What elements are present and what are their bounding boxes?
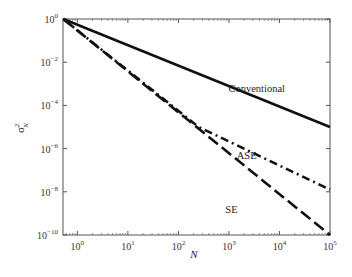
series-labels: ConventionalASESE bbox=[225, 83, 285, 215]
y-tick-label: 10−2 bbox=[41, 55, 59, 68]
series-lines bbox=[63, 19, 330, 235]
y-tick-label: 10−8 bbox=[41, 185, 59, 198]
series-label-se: SE bbox=[225, 204, 237, 215]
x-tick-label: 105 bbox=[323, 239, 337, 252]
y-tick-label: 100 bbox=[45, 12, 59, 25]
x-tick-labels: 100101102103104105 bbox=[71, 239, 338, 252]
x-tick-label: 103 bbox=[222, 239, 236, 252]
y-tick-label: 10−6 bbox=[41, 142, 59, 155]
chart: 10010−210−410−610−810−10 100101102103104… bbox=[0, 0, 352, 277]
x-tick-label: 104 bbox=[273, 239, 287, 252]
series-line-conventional bbox=[63, 19, 330, 127]
x-axis-label: N bbox=[189, 248, 198, 260]
y-tick-label: 10−10 bbox=[37, 228, 58, 241]
series-line-ase bbox=[63, 19, 330, 190]
y-tick-label: 10−4 bbox=[41, 98, 59, 111]
x-tick-label: 102 bbox=[172, 239, 186, 252]
y-axis-sub: N bbox=[22, 123, 30, 129]
y-tick-labels: 10010−210−410−610−810−10 bbox=[37, 12, 58, 241]
y-axis-sup: 2 bbox=[13, 123, 21, 127]
series-label-ase: ASE bbox=[237, 150, 257, 161]
series-label-conventional: Conventional bbox=[228, 83, 285, 94]
x-tick-label: 101 bbox=[121, 239, 135, 252]
x-tick-label: 100 bbox=[71, 239, 85, 252]
svg-text:σ2N: σ2N bbox=[13, 123, 30, 133]
y-axis-label: σ2N bbox=[13, 123, 30, 133]
series-line-se bbox=[63, 19, 330, 235]
